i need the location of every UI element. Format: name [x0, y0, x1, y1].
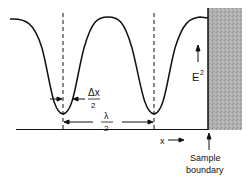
- sample-boundary-arrow: [207, 133, 211, 150]
- x-direction-arrow: [168, 138, 184, 142]
- e-squared-wave-curve: [10, 17, 208, 114]
- x-axis-label: x: [160, 136, 165, 146]
- e-squared-arrow: [196, 45, 200, 62]
- sample-region: [208, 8, 242, 130]
- sample-label-line1: Sample: [190, 153, 221, 163]
- e-squared-exponent: 2: [200, 69, 204, 76]
- lambda-denominator: 2: [104, 124, 109, 133]
- delta-x-denominator: 2: [91, 101, 96, 110]
- e-squared-label: E: [192, 71, 199, 83]
- delta-x-arrows: [50, 97, 85, 101]
- delta-x-numerator: Δx: [88, 87, 100, 98]
- standing-wave-diagram: Δx 2 λ 2 E 2 x Sample boundary: [0, 0, 248, 181]
- lambda-numerator: λ: [104, 111, 109, 121]
- sample-label-line2: boundary: [186, 165, 224, 175]
